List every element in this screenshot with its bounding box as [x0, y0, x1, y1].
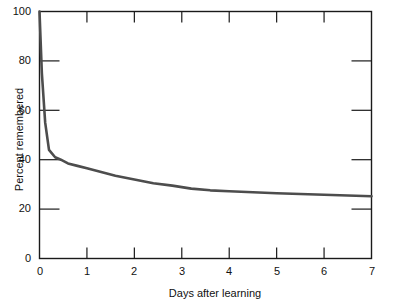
y-tick-label-100: 100	[5, 6, 31, 17]
x-axis-title: Days after learning	[135, 288, 295, 299]
x-tick-label-6: 6	[314, 266, 334, 277]
x-tick-label-1: 1	[77, 266, 97, 277]
chart-background	[0, 0, 395, 305]
chart-container: 100 80 60 40 20 0 0 1 2 3 4 5 6 7 Percen…	[0, 0, 395, 305]
plot-canvas	[0, 0, 395, 305]
x-tick-label-4: 4	[219, 266, 239, 277]
x-tick-label-3: 3	[172, 266, 192, 277]
x-tick-label-5: 5	[267, 266, 287, 277]
y-tick-label-20: 20	[5, 203, 31, 214]
x-tick-label-7: 7	[362, 266, 382, 277]
y-axis-title: Percent remembered	[14, 80, 25, 200]
x-tick-label-0: 0	[30, 266, 50, 277]
y-tick-label-80: 80	[5, 55, 31, 66]
x-tick-label-2: 2	[124, 266, 144, 277]
y-tick-label-0: 0	[5, 253, 31, 264]
